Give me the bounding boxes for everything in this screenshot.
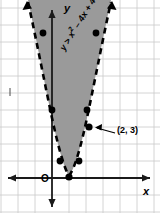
coordinate-plane-svg [0,0,160,213]
interior-point-2-3 [85,123,92,130]
vertex-point-marker [65,173,72,180]
callout-leader-arrow [95,124,102,131]
point-marker [93,30,100,37]
point-marker [40,30,47,37]
point-marker [57,158,64,165]
point-callout-label: (2, 3) [117,126,138,135]
x-axis-arrow-left [8,174,16,181]
y-axis-label: y [64,3,70,14]
point-marker [49,107,56,114]
point-marker [76,158,83,165]
origin-label: O [41,174,49,184]
x-axis-arrow-right [142,174,150,181]
y-axis-arrow-down [48,199,55,207]
x-axis-label: x [143,186,149,197]
callout-point-group [85,123,115,133]
graph-figure: y x O (2, 3) y > x2 – 4x + 4 [0,0,160,213]
point-marker [84,107,91,114]
